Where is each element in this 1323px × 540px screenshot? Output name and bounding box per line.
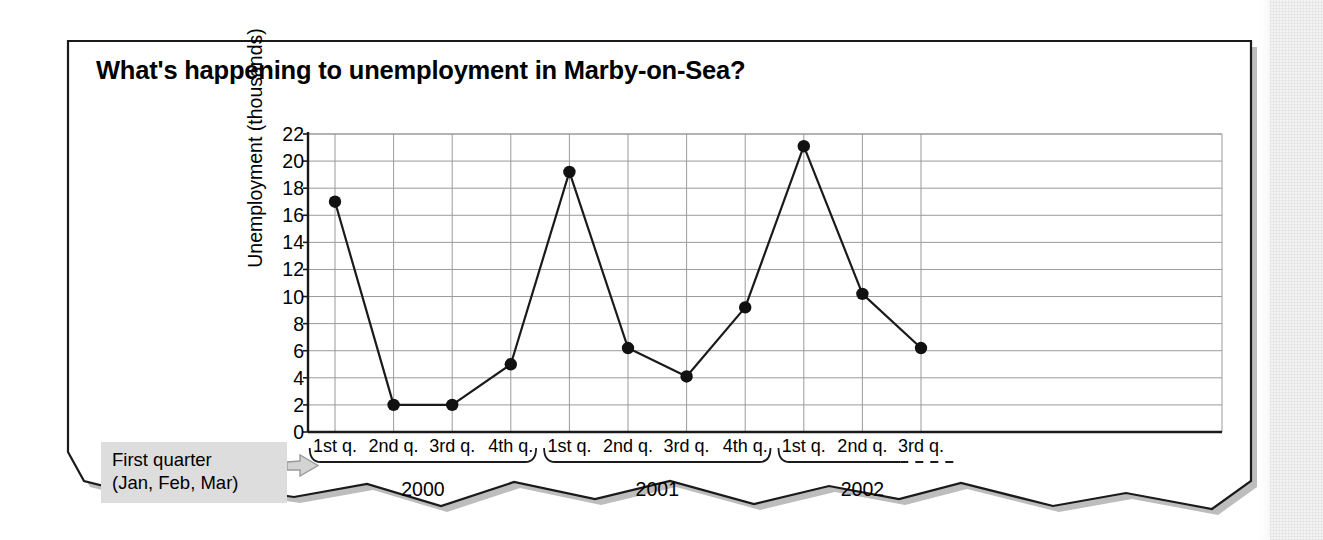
data-point-marker bbox=[739, 301, 751, 313]
data-point-marker bbox=[856, 288, 868, 300]
figure-root: What's happening to unemployment in Marb… bbox=[0, 0, 1323, 540]
y-axis-tick-label: 2 bbox=[293, 393, 304, 416]
year-label: 2000 bbox=[401, 478, 444, 501]
callout-line-1: First quarter bbox=[112, 449, 212, 470]
x-axis-tick-label: 2nd q. bbox=[603, 436, 653, 457]
data-point-marker bbox=[446, 399, 458, 411]
callout-first-quarter: First quarter (Jan, Feb, Mar) bbox=[101, 442, 287, 503]
y-axis-tick-label: 0 bbox=[293, 421, 304, 444]
y-axis-tick-label: 4 bbox=[293, 366, 304, 389]
x-axis-tick-label: 2nd q. bbox=[369, 436, 419, 457]
y-axis-tick-label: 12 bbox=[282, 258, 304, 281]
y-axis-tick-label: 14 bbox=[282, 231, 304, 254]
callout-line-2: (Jan, Feb, Mar) bbox=[112, 472, 278, 495]
data-point-marker bbox=[387, 399, 399, 411]
x-axis-tick-label: 1st q. bbox=[313, 436, 357, 457]
y-axis-tick-label: 6 bbox=[293, 339, 304, 362]
x-axis-tick-label: 2nd q. bbox=[837, 436, 887, 457]
x-axis-tick-label: 4th q. bbox=[488, 436, 533, 457]
x-axis-tick-label: 4th q. bbox=[723, 436, 768, 457]
x-axis-tick-label: 3rd q. bbox=[429, 436, 475, 457]
year-label: 2001 bbox=[636, 478, 679, 501]
y-axis-tick-label: 22 bbox=[282, 123, 304, 146]
x-axis-tick-label: 3rd q. bbox=[664, 436, 710, 457]
data-point-marker bbox=[622, 342, 634, 354]
x-axis-tick-label: 1st q. bbox=[547, 436, 591, 457]
data-point-marker bbox=[798, 140, 810, 152]
y-axis-tick-label: 18 bbox=[282, 177, 304, 200]
y-axis-tick-label: 20 bbox=[282, 150, 304, 173]
year-label: 2002 bbox=[841, 478, 884, 501]
y-axis-tick-label: 8 bbox=[293, 312, 304, 335]
x-axis-tick-label: 1st q. bbox=[782, 436, 826, 457]
data-point-marker bbox=[329, 196, 341, 208]
y-axis-tick-label: 16 bbox=[282, 204, 304, 227]
data-point-marker bbox=[680, 370, 692, 382]
y-axis-tick-label: 10 bbox=[282, 285, 304, 308]
data-point-marker bbox=[563, 166, 575, 178]
data-point-marker bbox=[915, 342, 927, 354]
x-axis-tick-label: 3rd q. bbox=[898, 436, 944, 457]
data-point-marker bbox=[505, 358, 517, 370]
